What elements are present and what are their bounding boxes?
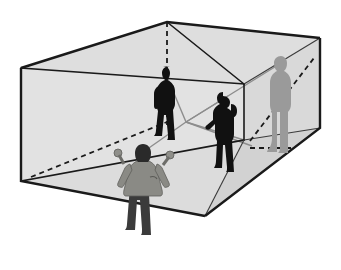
perspective-box-illustration: [0, 0, 341, 270]
figure-observer-head: [135, 144, 151, 162]
scene-svg: [0, 0, 341, 270]
